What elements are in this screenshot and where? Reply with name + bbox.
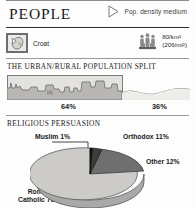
triangle-right-icon bbox=[108, 5, 119, 18]
ethnic-portrait-icon bbox=[6, 33, 28, 53]
ethnic-group-fact: Croat bbox=[6, 33, 49, 53]
urban-rural-heading: THE URBAN/RURAL POPULATION SPLIT bbox=[6, 58, 189, 74]
pie-chart-3d-icon bbox=[30, 138, 150, 208]
people-fact-panel: PEOPLE Pop. density medium Croat bbox=[0, 0, 195, 208]
facts-row: Croat 80/km² (206/mi²) bbox=[6, 28, 189, 58]
density-metric: 80/km² bbox=[162, 33, 187, 40]
urban-percentage: 64% bbox=[61, 102, 76, 111]
religion-chart-area: Muslim 1% Orthodox 11% Other 12% Roman C… bbox=[6, 132, 189, 208]
page-title: PEOPLE bbox=[6, 5, 71, 23]
pie-label-other: Other 12% bbox=[146, 158, 180, 165]
header-note-group: Pop. density medium bbox=[108, 5, 187, 18]
urban-rural-percentages: 64% 36% bbox=[6, 101, 189, 115]
density-imperial: (206/mi²) bbox=[162, 41, 187, 48]
population-density-fact: 80/km² (206/mi²) bbox=[138, 31, 187, 50]
pop-density-note: Pop. density medium bbox=[124, 8, 187, 15]
density-values: 80/km² (206/mi²) bbox=[162, 33, 187, 48]
ethnic-group-label: Croat bbox=[33, 40, 49, 47]
city-skyline-and-hills-graphic bbox=[7, 75, 190, 100]
religion-heading: RELIGIOUS PERSUASION bbox=[6, 115, 189, 131]
panel-header: PEOPLE Pop. density medium bbox=[6, 0, 189, 28]
rural-percentage: 36% bbox=[152, 102, 167, 111]
crowd-icon bbox=[138, 31, 157, 50]
